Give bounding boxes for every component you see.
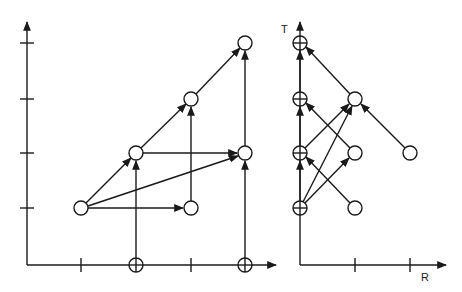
node-f: [238, 146, 252, 160]
r-axis-label: R: [421, 271, 429, 283]
crossed-node: [238, 258, 252, 272]
crossed-node-t1: [293, 36, 307, 50]
node-u: [348, 201, 362, 215]
edge-t4-p: [303, 106, 352, 202]
edge-s-p: [361, 104, 405, 148]
edge-c-d: [196, 48, 240, 94]
node-d: [238, 36, 252, 50]
right-diagram: T R: [281, 22, 446, 283]
edge-t4-q: [305, 158, 349, 203]
node-p: [348, 92, 362, 106]
crossed-node-t3: [293, 146, 307, 160]
edge-a-f: [88, 156, 238, 206]
node-b: [129, 146, 143, 160]
t-axis-label: T: [281, 23, 288, 35]
node-q: [348, 146, 362, 160]
node-s: [403, 146, 417, 160]
left-diagram: [20, 22, 276, 272]
crossed-node-t4: [293, 201, 307, 215]
edge-p-t1: [306, 47, 350, 94]
diagram-canvas: T R: [0, 0, 462, 292]
crossed-node-t2: [293, 92, 307, 106]
node-c: [184, 92, 198, 106]
crossed-node: [129, 258, 143, 272]
node-a: [74, 201, 88, 215]
edge-b-c: [141, 104, 186, 148]
node-e: [184, 201, 198, 215]
edge-a-b: [86, 158, 131, 203]
